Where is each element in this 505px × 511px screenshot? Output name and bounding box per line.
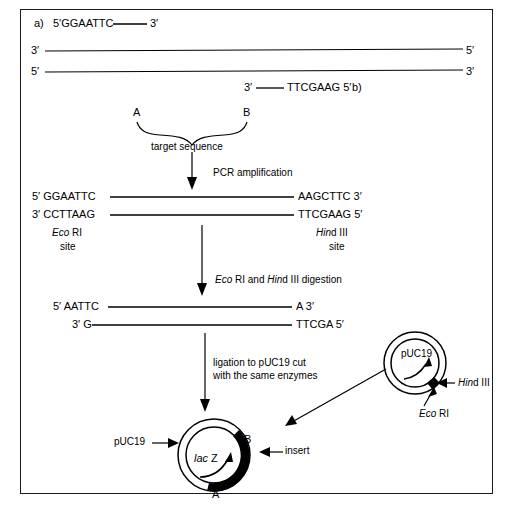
vector-orientation-arc	[404, 364, 426, 379]
vector-orientation-arrowhead	[424, 357, 432, 367]
vector-to-recombinant-arrow-shaft	[292, 369, 386, 422]
template-top-strand	[45, 49, 463, 51]
diagram-vector-layer	[0, 0, 505, 511]
recombinant-vector-pointer-head	[168, 438, 179, 448]
pcr-arrow-head	[187, 177, 197, 190]
insert-pointer-head	[259, 447, 270, 457]
ligation-arrow-head	[200, 399, 210, 412]
recombinant-orientation-arc	[200, 459, 228, 477]
figure-canvas: a) 5′GGAATTC 3′ 3′ 5′ 5′ 3′ 3′ TTCGAAG 5…	[0, 0, 505, 511]
digestion-arrow-head	[197, 283, 207, 296]
target-sequence-brace	[137, 122, 247, 145]
template-bottom-strand	[45, 70, 463, 72]
recombinant-orientation-arrowhead	[225, 452, 233, 462]
